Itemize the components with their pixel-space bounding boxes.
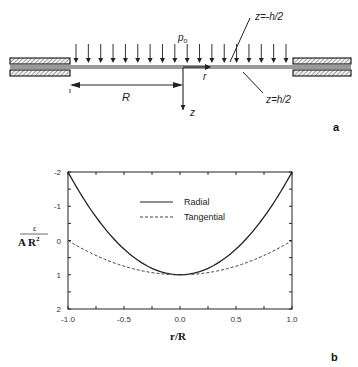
arrowhead-icon [209, 58, 214, 63]
bottom-surface-label: z=h/2 [265, 94, 291, 105]
plot-frame [68, 172, 292, 309]
arrowhead-icon [271, 58, 276, 63]
figure-canvas: po r z R z=-h/2 z=h/2 a -1.0-0.50.00.51.… [0, 0, 358, 367]
arrowhead-icon [98, 58, 103, 63]
y-label-numerator: ε [33, 225, 36, 232]
pressure-arrows [74, 44, 289, 63]
plate-diagram: po r z R z=-h/2 z=h/2 a [10, 11, 351, 133]
panel-label-b: b [331, 351, 338, 363]
radius-label: R [122, 91, 130, 103]
tick-labels: -1.0-0.50.00.51.0-2-1012 [54, 168, 298, 324]
x-tick-label: 0.0 [174, 315, 186, 324]
strain-chart: -1.0-0.50.00.51.0-2-1012 Radial Tangenti… [18, 168, 338, 363]
arrowhead-icon [246, 58, 251, 63]
arrowhead-icon [172, 58, 177, 63]
legend-radial-label: Radial [184, 197, 210, 207]
x-tick-label: -1.0 [61, 315, 75, 324]
right-clamp-bottom [293, 70, 351, 76]
plate [10, 65, 351, 69]
y-axis-label: ε A R2 [18, 225, 48, 248]
pressure-label: po [177, 32, 188, 44]
left-clamp-top [10, 58, 70, 64]
right-clamp-top [293, 58, 351, 64]
y-label-denominator: A R2 [18, 235, 40, 248]
r-label: r [203, 71, 207, 82]
radial-curve [68, 172, 292, 275]
top-surface-label: z=-h/2 [254, 11, 284, 22]
arrowhead-icon [123, 58, 128, 63]
x-axis-label: r/R [170, 330, 187, 342]
z-label: z [189, 107, 195, 118]
radius-arrowhead-left [70, 82, 80, 88]
axis-ticks [68, 172, 292, 309]
arrowhead-icon [135, 58, 140, 63]
x-tick-label: -0.5 [117, 315, 131, 324]
arrowhead-icon [259, 58, 264, 63]
x-tick-label: 0.5 [230, 315, 242, 324]
arrowhead-icon [222, 58, 227, 63]
radius-arrowhead-right [173, 82, 183, 88]
y-tick-label: 2 [57, 305, 62, 314]
panel-label-a: a [333, 121, 340, 133]
arrowhead-icon [284, 58, 289, 63]
y-tick-label: -1 [54, 202, 62, 211]
legend: Radial Tangential [140, 197, 225, 222]
tangential-curve [68, 241, 292, 275]
arrowhead-icon [74, 58, 79, 63]
top-surface-leader [230, 18, 250, 62]
arrowhead-icon [86, 58, 91, 63]
arrowhead-icon [160, 58, 165, 63]
arrowhead-icon [185, 58, 190, 63]
x-tick-label: 1.0 [286, 315, 298, 324]
y-tick-label: 0 [57, 237, 62, 246]
legend-tangential-label: Tangential [184, 212, 225, 222]
left-clamp-bottom [10, 70, 70, 76]
arrowhead-icon [148, 58, 153, 63]
arrowhead-icon [111, 58, 116, 63]
arrowhead-icon [197, 58, 202, 63]
bottom-surface-leader [243, 72, 263, 93]
y-tick-label: 1 [57, 271, 62, 280]
y-tick-label: -2 [54, 168, 62, 177]
arrowhead-icon [234, 58, 239, 63]
